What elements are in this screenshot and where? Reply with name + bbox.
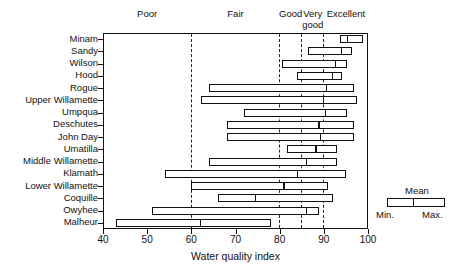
y-tick <box>98 174 103 175</box>
range-bar <box>297 72 342 80</box>
mean-marker <box>297 170 298 178</box>
y-tick <box>98 88 103 89</box>
band-label-poor: Poor <box>107 9 187 19</box>
band-label-good: good <box>273 20 353 30</box>
water-quality-index-chart: PoorFairGoodVerygoodExcellent MinamSandy… <box>0 0 460 272</box>
y-axis-label-hood: Hood <box>75 70 98 80</box>
y-axis-label-rogue: Rogue <box>70 83 98 93</box>
y-tick <box>98 51 103 52</box>
mean-marker <box>283 182 284 190</box>
y-tick <box>98 100 103 101</box>
x-tick-label-40: 40 <box>88 234 118 246</box>
legend: Mean Min. Max. <box>378 185 456 229</box>
range-bar <box>152 207 320 215</box>
mean-marker <box>325 109 326 117</box>
y-tick <box>98 162 103 163</box>
y-tick <box>98 113 103 114</box>
y-axis-label-umpqua: Umpqua <box>62 107 98 117</box>
mean-marker <box>326 84 327 92</box>
legend-min-label: Min. <box>376 209 410 220</box>
legend-mean-label: Mean <box>378 185 456 196</box>
y-axis-label-klamath: Klamath <box>63 168 98 178</box>
legend-range-bar <box>387 198 445 207</box>
y-axis-labels: MinamSandyWilsonHoodRogueUpper Willamett… <box>0 33 98 229</box>
y-tick <box>98 198 103 199</box>
range-bar <box>191 182 328 190</box>
y-axis-label-wilson: Wilson <box>69 58 98 68</box>
mean-marker <box>315 145 316 153</box>
y-tick <box>98 39 103 40</box>
mean-marker <box>341 47 342 55</box>
range-bar <box>116 219 271 227</box>
x-tick-label-60: 60 <box>176 234 206 246</box>
y-tick <box>98 149 103 150</box>
y-axis-label-lower-willamette: Lower Willamette <box>25 181 98 191</box>
y-axis-label-minam: Minam <box>69 34 98 44</box>
y-axis-label-umatilla: Umatilla <box>64 144 98 154</box>
bars-layer <box>103 33 368 229</box>
y-axis-label-malheur: Malheur <box>64 217 98 227</box>
range-bar <box>308 47 352 55</box>
range-bar <box>209 84 354 92</box>
band-label-excellent: Excellent <box>306 9 386 19</box>
x-tick-label-100: 100 <box>353 234 383 246</box>
mean-marker <box>323 96 324 104</box>
y-tick <box>98 76 103 77</box>
range-bar <box>227 121 354 129</box>
range-bar <box>340 35 363 43</box>
mean-marker <box>255 194 256 202</box>
y-axis-label-owyhee: Owyhee <box>63 205 98 215</box>
range-bar <box>165 170 346 178</box>
legend-max-label: Max. <box>422 209 456 220</box>
mean-marker <box>347 35 348 43</box>
x-tick-label-90: 90 <box>309 234 339 246</box>
y-axis-label-deschutes: Deschutes <box>53 119 98 129</box>
y-axis-label-sandy: Sandy <box>71 46 98 56</box>
y-axis-label-john-day: John Day <box>58 132 98 142</box>
y-tick <box>98 186 103 187</box>
range-bar <box>227 133 354 141</box>
range-bar <box>244 109 346 117</box>
range-bar <box>282 60 346 68</box>
x-tick-label-70: 70 <box>221 234 251 246</box>
x-tick-label-50: 50 <box>132 234 162 246</box>
range-bar <box>209 158 338 166</box>
y-tick <box>98 223 103 224</box>
mean-marker <box>200 219 201 227</box>
y-tick <box>98 125 103 126</box>
mean-marker <box>335 60 336 68</box>
mean-marker <box>318 121 319 129</box>
mean-marker <box>306 158 307 166</box>
range-bar <box>201 96 357 104</box>
x-axis-tick-labels: 405060708090100 <box>0 234 460 248</box>
legend-mean-tick <box>413 198 414 207</box>
range-bar <box>218 194 333 202</box>
x-axis-title: Water quality index <box>103 250 368 262</box>
x-tick-label-80: 80 <box>265 234 295 246</box>
mean-marker <box>332 72 333 80</box>
y-axis-label-middle-willamette: Middle Willamette <box>23 156 98 166</box>
y-axis-label-coquille: Coquille <box>64 193 98 203</box>
range-bar <box>287 145 337 153</box>
y-tick <box>98 137 103 138</box>
mean-marker <box>306 207 307 215</box>
y-tick <box>98 64 103 65</box>
mean-marker <box>320 133 321 141</box>
y-tick <box>98 211 103 212</box>
y-axis-label-upper-willamette: Upper Willamette <box>25 95 98 105</box>
